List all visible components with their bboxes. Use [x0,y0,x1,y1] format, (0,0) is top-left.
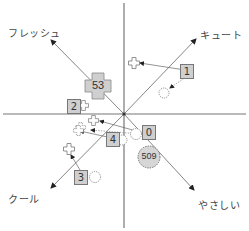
item-box-4[interactable]: 4 [106,132,120,147]
axis-label-gentle: やさしい [198,197,240,212]
badge-509-label: 509 [138,151,160,161]
fresh-arrow [51,40,124,114]
badge-53-label: 53 [86,79,110,91]
item-1-connectors [129,58,187,99]
axis-label-cool: クール [8,191,40,206]
positioning-map: フレッシュ キュート クール やさしい 53 509 1 2 0 4 3 [0,0,249,231]
item-box-0[interactable]: 0 [142,125,156,140]
axis-label-cute: キュート [200,27,242,42]
item-box-3[interactable]: 3 [74,170,88,185]
item-box-2[interactable]: 2 [67,99,81,114]
axis-label-fresh: フレッシュ [8,25,61,40]
item-box-1[interactable]: 1 [180,64,194,79]
origin-dot [122,112,125,115]
